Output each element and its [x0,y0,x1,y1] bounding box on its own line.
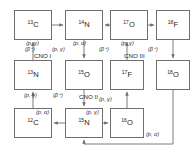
element-symbol-o17: O [129,20,135,29]
element-symbol-o16: O [127,118,133,127]
nuclide-label-c12: 12C [27,119,38,127]
nuclide-label-o16: 16O [121,119,133,127]
mass-number-o18: 18 [167,69,173,75]
nuclide-label-o15: 15O [78,71,90,79]
element-symbol-o15: O [84,70,90,79]
element-symbol-c13: C [33,20,38,29]
element-symbol-n15: N [84,118,89,127]
nuclide-label-n14: 14N [78,21,89,29]
nuclide-box-o17[interactable]: 17O [110,10,148,40]
reaction-label-o18-to-n15: (p, α) [146,132,159,138]
cycle-label-cno-2: CNO II [79,94,98,100]
element-symbol-o18: O [173,70,179,79]
cno-cycle-diagram: 13C 14N 17O 18F 13N 15O 17F 18O [0,0,193,152]
reaction-label-o17-to-f18: (p, γ) [121,41,134,47]
element-symbol-n14: N [84,20,89,29]
nuclide-label-n13: 13N [27,71,38,79]
reaction-label-f17-to-o17: (β⁺) [99,47,109,53]
element-symbol-f18: F [174,20,179,29]
nuclide-label-n15: 15N [78,119,89,127]
nuclide-box-f17[interactable]: 17F [110,60,144,90]
reaction-label-o15-to-n15: (β⁺) [53,93,63,99]
cycle-label-cno-3: CNO III [124,53,145,59]
nuclide-box-c13[interactable]: 13C [14,10,52,40]
nuclide-box-f18[interactable]: 18F [156,10,190,40]
mass-number-f17: 17 [122,69,128,75]
nuclide-box-o16[interactable]: 16O [110,108,144,138]
element-symbol-f17: F [128,70,133,79]
nuclide-box-n14[interactable]: 14N [65,10,103,40]
mass-number-o16: 16 [121,117,127,123]
mass-number-f18: 18 [168,19,174,25]
nuclide-label-c13: 13C [27,21,38,29]
reaction-label-n14-to-o15: (p, γ) [52,47,65,53]
element-symbol-n13: N [33,70,38,79]
element-symbol-c12: C [33,118,38,127]
reaction-label-o17-to-n14: (p, α) [73,41,86,47]
mass-number-o17: 17 [123,19,129,25]
reaction-label-n15-to-o16: (p, γ) [86,110,99,116]
reaction-label-c12-to-n13: (p, γ) [24,93,37,99]
nuclide-label-o18: 18O [167,71,179,79]
mass-number-o15: 15 [78,69,84,75]
reaction-label-n15-to-c12: (p, α) [36,110,49,116]
reaction-label-f18-to-o18: (β⁺) [148,47,158,53]
nuclide-box-o18[interactable]: 18O [156,60,190,90]
reaction-label-o16-to-f17: (p, γ) [99,97,112,103]
nuclide-label-f17: 17F [122,71,132,79]
nuclide-box-o15[interactable]: 15O [65,60,103,90]
nuclide-label-o17: 17O [123,21,135,29]
cycle-label-cno-1: CNO I [34,53,51,59]
nuclide-box-n13[interactable]: 13N [14,60,52,90]
nuclide-label-f18: 18F [168,21,178,29]
